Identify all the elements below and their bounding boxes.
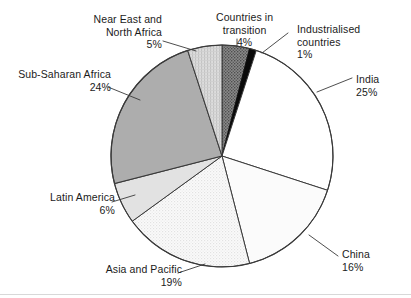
pie-label-percent: 19% bbox=[106, 276, 182, 289]
leader-line-near-east bbox=[163, 41, 196, 51]
pie-label-countries-in-transition: Countries in transition 4% bbox=[216, 11, 273, 49]
pie-label-asia-and-pacific: Asia and Pacific 19% bbox=[106, 263, 182, 288]
pie-label-name-line2: transition bbox=[216, 24, 273, 37]
pie-label-name-line1: Countries in bbox=[216, 11, 273, 24]
leader-line-asia-pacific bbox=[178, 264, 205, 273]
pie-label-name-line2: North Africa bbox=[94, 26, 162, 39]
pie-label-percent: 25% bbox=[356, 86, 379, 99]
figure-bottom-rule bbox=[0, 294, 411, 295]
pie-label-name-line1: Industrialised bbox=[297, 23, 360, 36]
pie-label-percent: 16% bbox=[342, 261, 370, 274]
pie-label-name-line1: Asia and Pacific bbox=[106, 263, 182, 276]
pie-label-percent: 5% bbox=[94, 38, 162, 51]
pie-label-latin-america: Latin America 6% bbox=[50, 191, 115, 216]
pie-label-near-east-and-north-africa: Near East and North Africa 5% bbox=[94, 13, 162, 51]
leader-line-india bbox=[317, 78, 352, 92]
pie-label-percent: 1% bbox=[297, 48, 360, 61]
pie-label-india: India 25% bbox=[356, 73, 379, 98]
pie-label-name-line1: Latin America bbox=[50, 191, 115, 204]
pie-label-percent: 6% bbox=[50, 204, 115, 217]
pie-label-percent: 4% bbox=[216, 36, 273, 49]
pie-chart-figure: Near East and North Africa 5% Sub-Sahara… bbox=[0, 0, 411, 298]
pie-label-sub-saharan-africa: Sub-Saharan Africa 24% bbox=[18, 68, 111, 93]
pie-label-china: China 16% bbox=[342, 248, 370, 273]
pie-label-name-line1: India bbox=[356, 73, 379, 86]
pie-slices bbox=[111, 45, 333, 267]
pie-label-industrialised-countries: Industrialised countries 1% bbox=[297, 23, 360, 61]
pie-label-name-line2: countries bbox=[297, 36, 360, 49]
pie-label-name-line1: China bbox=[342, 248, 370, 261]
pie-label-percent: 24% bbox=[18, 81, 111, 94]
pie-label-name-line1: Near East and bbox=[94, 13, 162, 26]
leader-line-china bbox=[309, 235, 338, 256]
pie-label-name-line1: Sub-Saharan Africa bbox=[18, 68, 111, 81]
